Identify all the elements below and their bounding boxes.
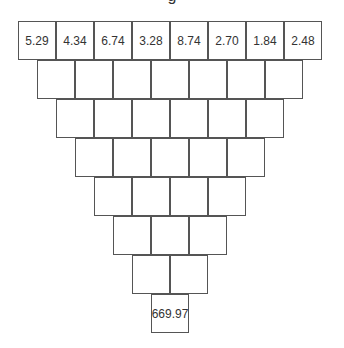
empty-cell[interactable] bbox=[113, 138, 151, 177]
empty-cell[interactable] bbox=[151, 216, 189, 255]
given-value-cell: 3.28 bbox=[132, 21, 170, 60]
empty-cell[interactable] bbox=[132, 177, 170, 216]
empty-cell[interactable] bbox=[246, 99, 284, 138]
given-value-cell: 8.74 bbox=[170, 21, 208, 60]
empty-cell[interactable] bbox=[170, 177, 208, 216]
empty-cell[interactable] bbox=[56, 99, 94, 138]
given-value-cell: 669.97 bbox=[151, 294, 189, 333]
empty-cell[interactable] bbox=[170, 99, 208, 138]
empty-cell[interactable] bbox=[132, 99, 170, 138]
empty-cell[interactable] bbox=[170, 255, 208, 294]
given-value-cell: 4.34 bbox=[56, 21, 94, 60]
empty-cell[interactable] bbox=[75, 138, 113, 177]
given-value-cell: 2.70 bbox=[208, 21, 246, 60]
empty-cell[interactable] bbox=[189, 216, 227, 255]
given-value-cell: 6.74 bbox=[94, 21, 132, 60]
given-value-cell: 2.48 bbox=[284, 21, 322, 60]
empty-cell[interactable] bbox=[151, 138, 189, 177]
empty-cell[interactable] bbox=[132, 255, 170, 294]
given-value-cell: 5.29 bbox=[18, 21, 56, 60]
given-value-cell: 1.84 bbox=[246, 21, 284, 60]
empty-cell[interactable] bbox=[208, 177, 246, 216]
empty-cell[interactable] bbox=[189, 138, 227, 177]
empty-cell[interactable] bbox=[189, 60, 227, 99]
empty-cell[interactable] bbox=[265, 60, 303, 99]
empty-cell[interactable] bbox=[113, 216, 151, 255]
empty-cell[interactable] bbox=[94, 99, 132, 138]
empty-cell[interactable] bbox=[37, 60, 75, 99]
empty-cell[interactable] bbox=[113, 60, 151, 99]
empty-cell[interactable] bbox=[227, 60, 265, 99]
empty-cell[interactable] bbox=[227, 138, 265, 177]
empty-cell[interactable] bbox=[75, 60, 113, 99]
empty-cell[interactable] bbox=[151, 60, 189, 99]
number-pyramid: 5.294.346.743.288.742.701.842.48669.97 bbox=[0, 0, 344, 348]
empty-cell[interactable] bbox=[94, 177, 132, 216]
empty-cell[interactable] bbox=[208, 99, 246, 138]
